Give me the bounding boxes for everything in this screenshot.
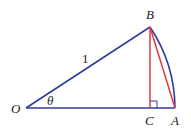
label-C: C (145, 113, 154, 128)
label-A: A (170, 113, 179, 128)
label-radius: 1 (82, 51, 89, 66)
sector-diagram: O B C A 1 θ (0, 0, 191, 136)
label-theta: θ (47, 93, 54, 108)
label-B: B (146, 7, 154, 22)
right-angle-marker (150, 101, 157, 108)
segment-BA (150, 27, 175, 108)
segment-OB (26, 27, 150, 108)
label-O: O (11, 101, 21, 116)
